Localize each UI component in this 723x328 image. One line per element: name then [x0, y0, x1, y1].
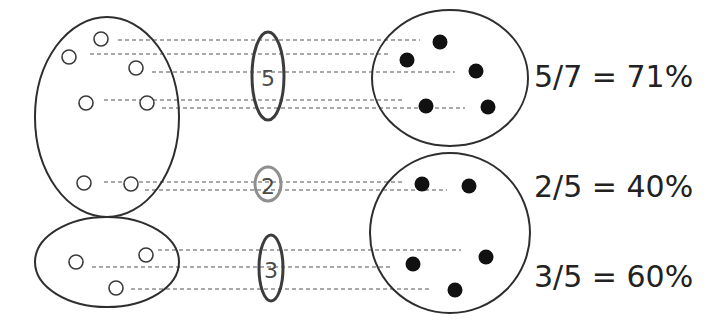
filled-dot	[448, 283, 463, 298]
count-five: 5	[252, 32, 284, 120]
count-two: 2	[255, 167, 281, 201]
open-dot	[140, 96, 154, 110]
open-dot	[69, 255, 83, 269]
right-set-top-circle	[372, 10, 528, 146]
right-set-top-dots	[400, 35, 496, 115]
open-dot	[124, 177, 138, 191]
open-dot	[129, 61, 143, 75]
left-set-bottom-dots	[69, 248, 153, 295]
left-set-bottom-ellipse	[35, 217, 179, 307]
filled-dot	[406, 257, 421, 272]
filled-dot	[419, 99, 434, 114]
ratio-middle: 2/5 = 40%	[534, 172, 693, 202]
open-dot	[77, 176, 91, 190]
open-dot	[62, 50, 76, 64]
filled-dot	[433, 35, 448, 50]
count-label: 5	[261, 66, 275, 91]
open-dot	[109, 281, 123, 295]
left-set-top-ellipse	[35, 17, 179, 217]
filled-dot	[400, 53, 415, 68]
filled-dot	[415, 177, 430, 192]
filled-dot	[462, 179, 477, 194]
diagram-canvas: 5 2 3 5/7 = 71% 2/5 = 40% 3/5 = 60%	[0, 0, 723, 328]
open-dot	[139, 248, 153, 262]
count-three: 3	[259, 235, 283, 301]
filled-dot	[481, 100, 496, 115]
count-label: 3	[264, 258, 278, 283]
ratio-bottom: 3/5 = 60%	[534, 262, 693, 292]
right-set-bottom-dots	[406, 177, 494, 298]
open-dot	[79, 96, 93, 110]
filled-dot	[479, 250, 494, 265]
open-dot	[94, 32, 108, 46]
count-label: 2	[261, 174, 275, 199]
ratio-top: 5/7 = 71%	[534, 62, 693, 92]
left-set-top-dots	[62, 32, 154, 191]
filled-dot	[469, 64, 484, 79]
